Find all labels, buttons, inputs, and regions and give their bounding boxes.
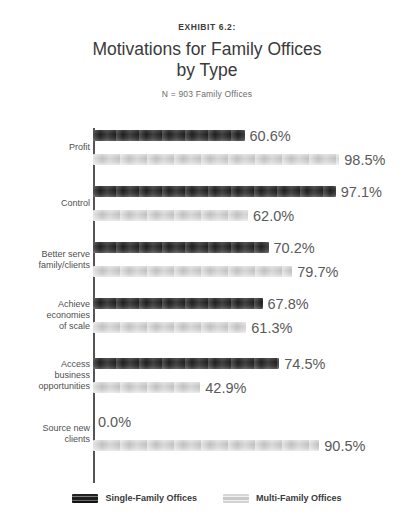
chart-subtitle: N = 903 Family Offices bbox=[0, 89, 414, 99]
category-label: Better servefamily/clients bbox=[4, 249, 90, 271]
category-label-line: family/clients bbox=[4, 260, 90, 271]
category-label-line: Access bbox=[4, 359, 90, 370]
category-label-line: business bbox=[4, 370, 90, 381]
bar-value-label: 60.6% bbox=[250, 128, 291, 144]
bar-value-label: 98.5% bbox=[344, 152, 385, 168]
bar-row: 98.5% bbox=[93, 154, 414, 165]
bar-value-label: 70.2% bbox=[274, 240, 315, 256]
bar-single-family bbox=[93, 358, 279, 369]
bar-row: 67.8% bbox=[93, 298, 414, 309]
bar-value-label: 79.7% bbox=[297, 264, 338, 280]
chart-title-line-2: by Type bbox=[0, 60, 414, 81]
bar-value-label: 62.0% bbox=[253, 208, 294, 224]
category-label-line: Control bbox=[4, 198, 90, 209]
category-label-line: of scale bbox=[4, 321, 90, 332]
bar-row: 79.7% bbox=[93, 266, 414, 277]
category-label-line: Achieve bbox=[4, 299, 90, 310]
bar-multi-family bbox=[93, 210, 248, 221]
category-label: Source newclients bbox=[4, 423, 90, 445]
bar-multi-family bbox=[93, 382, 200, 393]
legend-label: Single-Family Offices bbox=[105, 493, 197, 503]
bar-multi-family bbox=[93, 440, 319, 451]
category-label: Control bbox=[4, 198, 90, 209]
category-label: Accessbusinessopportunities bbox=[4, 359, 90, 392]
bar-multi-family bbox=[93, 154, 339, 165]
bar-value-label: 67.8% bbox=[268, 296, 309, 312]
category-label: Achieveeconomiesof scale bbox=[4, 299, 90, 332]
bar-row: 60.6% bbox=[93, 130, 414, 141]
bar-value-label: 74.5% bbox=[284, 356, 325, 372]
legend-item-single[interactable]: Single-Family Offices bbox=[72, 493, 197, 503]
bar-single-family bbox=[93, 130, 245, 141]
bar-row: 62.0% bbox=[93, 210, 414, 221]
category-label-line: clients bbox=[4, 434, 90, 445]
legend-swatch-icon bbox=[223, 494, 249, 503]
bar-value-label: 42.9% bbox=[205, 380, 246, 396]
bar-row: 97.1% bbox=[93, 186, 414, 197]
bar-single-family bbox=[93, 186, 336, 197]
chart-header: EXHIBIT 6.2: Motivations for Family Offi… bbox=[0, 0, 414, 99]
chart-legend: Single-Family OfficesMulti-Family Office… bbox=[0, 493, 414, 503]
chart-container: EXHIBIT 6.2: Motivations for Family Offi… bbox=[0, 0, 414, 524]
legend-label: Multi-Family Offices bbox=[256, 493, 342, 503]
bar-value-label: 97.1% bbox=[341, 184, 382, 200]
chart-title-line-1: Motivations for Family Offices bbox=[92, 39, 321, 59]
plot-area: Profit60.6%98.5%Control97.1%62.0%Better … bbox=[0, 120, 414, 490]
bar-single-family bbox=[93, 242, 269, 253]
category-label-line: opportunities bbox=[4, 381, 90, 392]
bar-row: 70.2% bbox=[93, 242, 414, 253]
bar-multi-family bbox=[93, 322, 246, 333]
legend-item-multi[interactable]: Multi-Family Offices bbox=[223, 493, 342, 503]
bar-row: 0.0% bbox=[93, 416, 414, 427]
bar-row: 42.9% bbox=[93, 382, 414, 393]
bar-value-label: 0.0% bbox=[98, 414, 131, 430]
bar-value-label: 90.5% bbox=[324, 438, 365, 454]
bar-row: 90.5% bbox=[93, 440, 414, 451]
category-label-line: economies bbox=[4, 310, 90, 321]
category-label-line: Profit bbox=[4, 142, 90, 153]
bar-row: 74.5% bbox=[93, 358, 414, 369]
exhibit-number: EXHIBIT 6.2: bbox=[0, 22, 414, 32]
category-label-line: Better serve bbox=[4, 249, 90, 260]
bar-single-family bbox=[93, 298, 263, 309]
bar-row: 61.3% bbox=[93, 322, 414, 333]
page-title: Motivations for Family Offices by Type bbox=[0, 39, 414, 81]
category-label: Profit bbox=[4, 142, 90, 153]
bar-multi-family bbox=[93, 266, 292, 277]
legend-swatch-icon bbox=[72, 494, 98, 503]
bar-value-label: 61.3% bbox=[251, 320, 292, 336]
category-label-line: Source new bbox=[4, 423, 90, 434]
